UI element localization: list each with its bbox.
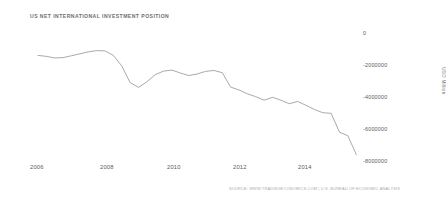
x-axis-tick-2012: 2012 <box>233 164 247 170</box>
y-axis-label: USD Million <box>441 67 446 94</box>
y-axis-tick-1: -2000000 <box>363 62 387 68</box>
y-axis-tick-0: 0 <box>363 30 366 36</box>
x-axis-tick-2006: 2006 <box>30 164 44 170</box>
data-line-us-niip <box>38 51 356 155</box>
x-axis-tick-2008: 2008 <box>100 164 114 170</box>
source-attribution: SOURCE: WWW.TRADINGECONOMICS.COM | U.S. … <box>229 186 400 191</box>
y-axis-tick-3: -6000000 <box>363 126 387 132</box>
x-axis-tick-2010: 2010 <box>167 164 181 170</box>
x-axis-tick-2014: 2014 <box>298 164 312 170</box>
y-axis-tick-2: -4000000 <box>363 94 387 100</box>
y-axis-tick-4: -8000000 <box>363 158 387 164</box>
